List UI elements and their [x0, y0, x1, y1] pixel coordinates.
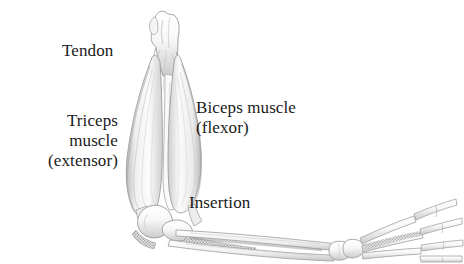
label-triceps-line-3: (extensor) [48, 151, 118, 170]
label-triceps-line-2: muscle [69, 131, 118, 150]
carpals [329, 239, 364, 260]
label-triceps-line-1: Triceps [67, 111, 118, 130]
label-insertion: Insertion [189, 193, 250, 213]
label-tendon: Tendon [62, 41, 113, 61]
label-biceps-line-2: (flexor) [196, 118, 249, 137]
label-biceps-muscle: Biceps muscle(flexor) [196, 98, 296, 138]
forearm [168, 230, 338, 261]
hand [360, 199, 463, 262]
triceps-muscle [126, 55, 162, 228]
label-triceps-muscle: Tricepsmuscle(extensor) [48, 111, 118, 171]
metacarpals [360, 216, 423, 259]
label-biceps-line-1: Biceps muscle [196, 98, 296, 117]
